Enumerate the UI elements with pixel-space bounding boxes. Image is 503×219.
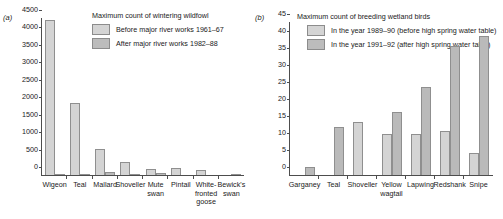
bar-group: Yellow wagtail [377,22,406,175]
bar-series2 [450,46,460,175]
x-axis-label: Teal [318,181,350,190]
y-axis-tick: 5 [282,146,290,154]
bar-series1 [411,134,421,175]
bar-series2 [105,172,115,175]
y-axis-tick: 0 [282,163,290,171]
panel-b-breeding-wetland-birds: (b) Maximum count of breeding wetland bi… [251,0,503,219]
bar-group: Teal [319,22,348,175]
bar-group: Wigeon [42,18,67,175]
bar-series1 [382,134,392,175]
bar-group: Bewick's swan [219,18,244,175]
bar-series1 [95,149,105,175]
bar-group: Mute swan [143,18,168,175]
bar-series2 [334,127,344,175]
y-axis-tick: 4500 [22,6,42,14]
x-axis-label: Bewick's swan [214,181,248,198]
bar-series1 [440,131,450,175]
x-axis-label: Yellow wagtail [376,181,408,198]
x-axis-label: Shoveller [347,181,379,190]
bar-series2 [305,167,315,175]
panel-b-tag: (b) [255,13,264,22]
y-axis-tick: 20 [278,95,290,103]
y-axis-tick: 1500 [22,111,42,119]
bar-series2 [392,112,402,175]
y-axis-tick: 35 [278,44,290,52]
y-axis-tick: 2500 [22,76,42,84]
panel-b-plot-area: 051015202530354045 GarganeyTealShoveller… [289,22,493,176]
bar-group: Snipe [464,22,493,175]
bar-series1 [146,169,156,175]
panel-b-legend-title: Maximum count of breeding wetland birds [297,12,496,21]
y-axis-tick: 500 [26,146,42,154]
bar-group: White-fronted goose [194,18,219,175]
y-axis-tick: 30 [278,61,290,69]
y-axis-tick: 15 [278,112,290,120]
bar-series1 [196,170,206,175]
panel-a-bars: WigeonTealMallardShovellerMute swanPinta… [42,18,244,175]
y-axis-tick: 2000 [22,93,42,101]
bar-series1 [353,122,363,175]
panel-b-bars: GarganeyTealShovellerYellow wagtailLapwi… [290,22,493,175]
bar-series2 [80,174,90,175]
y-axis-tick: 3500 [22,41,42,49]
y-axis-tick: 4000 [22,23,42,31]
y-axis-tick: 0 [34,163,42,171]
bar-group: Shoveller [348,22,377,175]
bar-series2 [421,87,431,175]
bar-series2 [55,174,65,175]
bar-group: Mallard [93,18,118,175]
y-axis-tick: 1000 [22,128,42,136]
bar-series1 [469,153,479,175]
panel-a-tag: (a) [3,13,12,22]
y-axis-tick: 10 [278,129,290,137]
bar-series1 [120,162,130,175]
y-axis-tick: 25 [278,78,290,86]
x-axis-label: Garganey [289,181,321,190]
bar-series2 [231,174,241,175]
bar-series1 [171,168,181,175]
y-axis-tick: 40 [278,27,290,35]
bar-series2 [130,174,140,175]
bar-group: Teal [67,18,92,175]
panel-a-wintering-wildfowl: (a) Maximum count of wintering wildfowl … [0,0,251,219]
bar-group: Redshank [435,22,464,175]
bar-series1 [70,103,80,175]
bar-group: Pintail [168,18,193,175]
bar-series2 [156,173,166,175]
bar-group: Garganey [290,22,319,175]
bar-group: Lapwing [406,22,435,175]
bar-series2 [479,36,489,175]
x-axis-label: Snipe [463,181,495,190]
bar-series1 [45,20,55,175]
x-axis-label: Redshank [434,181,466,190]
y-axis-tick: 3000 [22,58,42,66]
bar-group: Shoveller [118,18,143,175]
panel-a-plot-area: 050010001500200025003000350040004500 Wig… [41,18,244,176]
y-axis-tick: 45 [278,10,290,18]
figure-wetland-bird-counts: (a) Maximum count of wintering wildfowl … [0,0,503,219]
x-axis-label: Lapwing [405,181,437,190]
